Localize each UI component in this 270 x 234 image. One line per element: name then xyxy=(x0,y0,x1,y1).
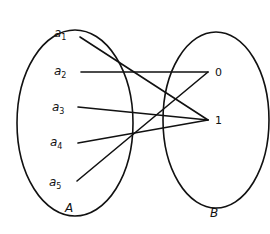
mapping-line-a1-to-1 xyxy=(80,37,208,120)
element-a3: a3 xyxy=(52,100,64,116)
mapping-line-a4-to-1 xyxy=(78,120,208,143)
mapping-line-a3-to-1 xyxy=(78,107,208,120)
set-a-ellipse xyxy=(17,30,133,216)
element-a1: a1 xyxy=(54,26,66,42)
mapping-diagram: ABa1a2a3a4a501 xyxy=(0,0,270,234)
element-a5: a5 xyxy=(49,175,61,191)
element-0: 0 xyxy=(215,66,222,79)
element-1: 1 xyxy=(215,114,222,127)
set-a-label: A xyxy=(64,201,73,215)
element-labels: ABa1a2a3a4a501 xyxy=(49,26,222,220)
mapping-lines xyxy=(77,37,208,181)
element-a2: a2 xyxy=(54,64,66,80)
set-b-label: B xyxy=(210,206,218,220)
element-a4: a4 xyxy=(50,135,62,151)
mapping-line-a5-to-0 xyxy=(77,72,208,181)
